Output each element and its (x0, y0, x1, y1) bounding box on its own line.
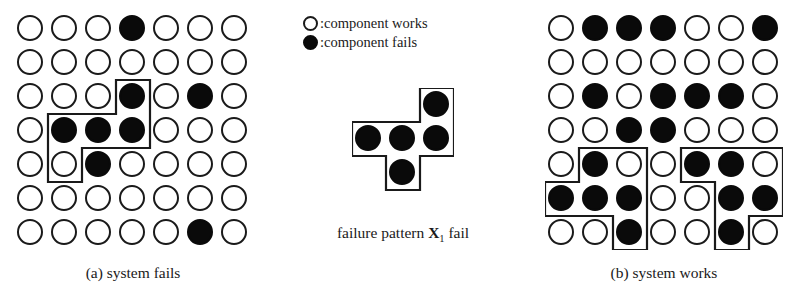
component-cell (218, 216, 252, 250)
component-cell (116, 114, 150, 148)
component-working (616, 49, 642, 75)
component-cell (715, 46, 749, 80)
component-working (752, 49, 778, 75)
failure-pattern-caption: failure pattern X1 fail (299, 224, 507, 244)
component-cell (681, 182, 715, 216)
component-cell (545, 182, 579, 216)
component-cell (82, 148, 116, 182)
component-working (17, 185, 43, 211)
component-working (187, 49, 213, 75)
component-cell (184, 80, 218, 114)
filled-circle-icon (303, 35, 318, 50)
component-working (51, 185, 77, 211)
open-circle-icon (303, 16, 318, 31)
legend-label-works: :component works (320, 14, 428, 33)
panel-b-system-works: (b) system works (545, 12, 783, 250)
legend: :component works :component fails (303, 14, 428, 52)
pattern-cell (352, 122, 386, 156)
component-working (752, 117, 778, 143)
component-cell (48, 114, 82, 148)
component-failed (582, 83, 608, 109)
legend-item-works: :component works (303, 14, 428, 33)
component-cell (116, 12, 150, 46)
component-cell (150, 46, 184, 80)
panel-a-caption: (a) system fails (14, 264, 252, 282)
component-working (650, 151, 676, 177)
pattern-cell (386, 122, 420, 156)
component-working (221, 15, 247, 41)
component-working (221, 151, 247, 177)
component-cell (715, 148, 749, 182)
component-working (684, 185, 710, 211)
component-working (17, 219, 43, 245)
component-cell (218, 12, 252, 46)
component-cell (116, 216, 150, 250)
component-working (153, 151, 179, 177)
component-working (187, 117, 213, 143)
component-cell (218, 182, 252, 216)
component-cell (579, 148, 613, 182)
component-cell (150, 80, 184, 114)
panel-a-system-fails: (a) system fails (14, 12, 252, 250)
component-failed (616, 117, 642, 143)
component-working (221, 185, 247, 211)
component-cell (48, 80, 82, 114)
component-cell (184, 46, 218, 80)
component-working (51, 83, 77, 109)
component-cell (613, 12, 647, 46)
component-grid-b (545, 12, 783, 250)
component-failed (187, 83, 213, 109)
component-working (153, 185, 179, 211)
component-failed (423, 91, 449, 117)
component-working (650, 49, 676, 75)
component-working (17, 151, 43, 177)
component-cell (579, 114, 613, 148)
component-failed (650, 117, 676, 143)
component-failed (51, 117, 77, 143)
component-cell (116, 46, 150, 80)
component-cell (647, 216, 681, 250)
failure-pattern-grid (352, 88, 454, 224)
component-working (119, 219, 145, 245)
component-cell (715, 12, 749, 46)
component-cell (647, 148, 681, 182)
component-working (85, 83, 111, 109)
component-cell (749, 46, 783, 80)
component-cell (749, 114, 783, 148)
component-working (616, 151, 642, 177)
component-cell (545, 216, 579, 250)
component-cell (749, 12, 783, 46)
component-cell (184, 114, 218, 148)
component-working (221, 49, 247, 75)
component-cell (150, 114, 184, 148)
component-working (582, 49, 608, 75)
component-failed (423, 125, 449, 151)
pattern-caption-symbol: X (428, 224, 439, 241)
component-cell (545, 148, 579, 182)
component-cell (681, 216, 715, 250)
component-working (187, 185, 213, 211)
component-failed (582, 185, 608, 211)
component-cell (218, 46, 252, 80)
component-failed (85, 151, 111, 177)
component-cell (82, 46, 116, 80)
component-failed (752, 185, 778, 211)
component-working (85, 219, 111, 245)
figure-canvas: (a) system fails :component works :compo… (0, 0, 805, 295)
component-cell (14, 80, 48, 114)
component-failed (616, 185, 642, 211)
component-cell (82, 216, 116, 250)
component-cell (150, 182, 184, 216)
component-working (153, 15, 179, 41)
component-working (752, 219, 778, 245)
component-cell (150, 216, 184, 250)
component-cell (647, 182, 681, 216)
component-cell (218, 148, 252, 182)
component-working (221, 83, 247, 109)
component-working (582, 117, 608, 143)
component-failed (650, 83, 676, 109)
component-cell (681, 114, 715, 148)
component-working (684, 15, 710, 41)
component-cell (218, 80, 252, 114)
component-cell (218, 114, 252, 148)
